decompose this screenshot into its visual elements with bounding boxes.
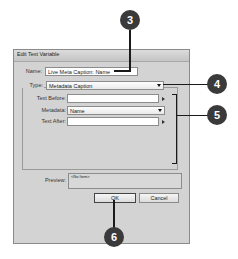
metadata-select-value: Name [70, 108, 85, 114]
callout-5: 5 [207, 105, 227, 125]
type-select-value: Metadata Caption [49, 83, 92, 89]
callout-4-leader-line [163, 84, 208, 85]
callout-3-leader-line [114, 70, 131, 72]
preview-box: <No Item> [68, 173, 182, 189]
type-select[interactable]: Metadata Caption [46, 81, 164, 90]
metadata-label: Metadata: [24, 107, 66, 113]
preview-label: Preview: [28, 177, 66, 183]
text-before-label: Text Before: [24, 95, 66, 101]
chevron-down-icon [158, 109, 162, 112]
name-label: Name: [16, 68, 42, 74]
callout-5-leader-line [176, 115, 208, 116]
text-after-input[interactable] [67, 117, 159, 126]
text-after-label: Text After: [24, 118, 66, 124]
callout-4: 4 [207, 74, 227, 94]
text-after-insert-arrow-icon[interactable] [162, 120, 165, 124]
text-before-input[interactable] [67, 94, 159, 103]
dialog-title: Edit Text Variable [17, 51, 59, 57]
metadata-select[interactable]: Name [67, 106, 165, 115]
dialog-titlebar[interactable]: Edit Text Variable [14, 50, 189, 62]
callout-3-leader-line [129, 30, 131, 71]
type-label: Type: [22, 82, 44, 88]
callout-6: 6 [104, 227, 124, 247]
ok-button[interactable]: OK [94, 193, 136, 203]
callout-5-bracket [172, 163, 177, 164]
callout-6-leader-line [113, 200, 115, 228]
text-before-insert-arrow-icon[interactable] [162, 97, 165, 101]
callout-3: 3 [120, 10, 140, 30]
chevron-down-icon [157, 84, 161, 87]
cancel-button[interactable]: Cancel [139, 193, 179, 203]
callout-5-bracket [176, 94, 177, 164]
edit-text-variable-dialog: Edit Text Variable Name: Live Meta Capti… [13, 49, 190, 244]
